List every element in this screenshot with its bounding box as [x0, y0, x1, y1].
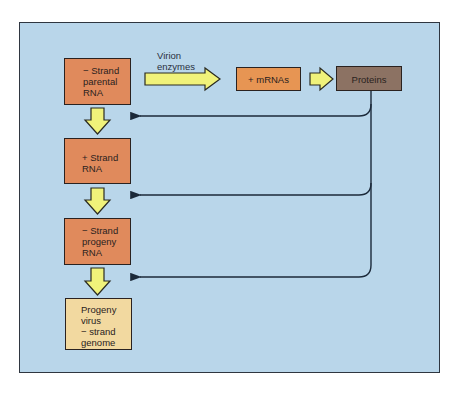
node-progeny-virus: Progeny virus − strand genome	[65, 298, 132, 350]
edge-label-text: enzymes	[157, 61, 195, 72]
down-arrow-3	[85, 268, 110, 295]
node-text: RNA	[83, 87, 130, 98]
down-arrow-1	[85, 108, 110, 134]
node-text: parental	[83, 76, 130, 87]
feedback-line-3	[140, 183, 371, 277]
node-text: RNA	[82, 163, 130, 174]
node-pos-strand: + Strand RNA	[64, 138, 131, 184]
node-text: − Strand	[82, 225, 130, 236]
node-proteins: Proteins	[336, 66, 402, 91]
node-text: genome	[81, 337, 131, 348]
node-text: + Strand	[82, 152, 130, 163]
node-text: RNA	[82, 247, 130, 258]
edge-label-virion-enzymes: Virion enzymes	[157, 50, 195, 72]
node-mrnas: + mRNAs	[236, 67, 301, 91]
node-neg-strand-progeny: − Strand progeny RNA	[64, 218, 131, 265]
right-arrow-mrna	[310, 68, 333, 90]
node-text: Proteins	[337, 74, 401, 85]
node-text: − strand	[81, 326, 131, 337]
node-text: Progeny	[81, 304, 131, 315]
node-text: − Strand	[83, 65, 130, 76]
feedback-line-2	[140, 104, 371, 195]
edge-label-text: Virion	[157, 50, 195, 61]
feedback-line-1	[140, 91, 371, 116]
node-text: progeny	[82, 236, 130, 247]
node-neg-strand-parental: − Strand parental RNA	[64, 58, 131, 105]
down-arrow-2	[85, 188, 110, 214]
node-text: + mRNAs	[237, 74, 300, 85]
node-text: virus	[81, 315, 131, 326]
